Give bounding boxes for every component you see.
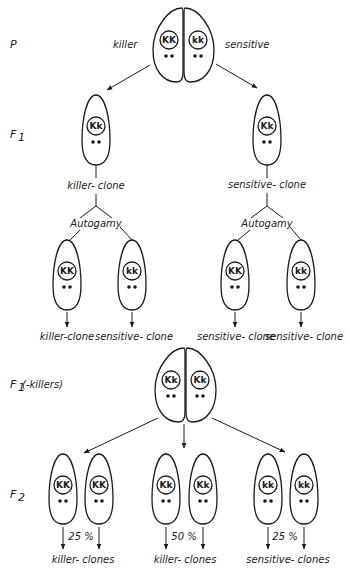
generation-label-f1-killers: F 1 (-killers): [10, 378, 63, 394]
svg-text:1: 1: [18, 131, 25, 144]
generation-label-f1: F 1: [10, 128, 25, 144]
f2-group-3: kk kk 25 % sensitive- clones: [246, 454, 329, 565]
genotype-label: KK: [60, 266, 75, 276]
autogamy-label-4: sensitive- clone: [265, 331, 343, 342]
arrow-p-to-f1-killer: [107, 65, 150, 90]
parental-killer-cell: KK: [153, 8, 183, 82]
genotype-label: kk: [262, 480, 275, 490]
arrow-f1-to-f2-right: [212, 418, 285, 452]
f2-group-1: KK KK 25 % killer- clones: [49, 454, 114, 565]
autogamy-cell-4: kk: [287, 240, 315, 310]
genotype-label: KK: [92, 480, 107, 490]
genotype-label: KK: [162, 35, 177, 45]
branch-lines: [80, 206, 112, 218]
parental-sensitive-cell: kk: [184, 8, 214, 82]
genotype-label: Kk: [194, 375, 208, 385]
branch-lines: [251, 206, 283, 218]
genotype-label: Kk: [90, 121, 104, 131]
genotype-label: KK: [228, 266, 243, 276]
svg-text:2: 2: [18, 491, 25, 504]
genotype-label: Kk: [197, 480, 211, 490]
f1-killer-pair: Kk Kk: [155, 348, 216, 422]
autogamy-label-2: sensitive- clone: [95, 331, 173, 342]
f2-cell: Kk: [152, 454, 180, 524]
f1-sensitive-clone-label: sensitive- clone: [228, 179, 306, 190]
arrow-f1-to-f2-left: [84, 418, 158, 453]
genotype-label: Kk: [160, 480, 174, 490]
genotype-label: kk: [126, 266, 139, 276]
f2-percent-3: 25 %: [272, 531, 297, 542]
parental-pair: KK kk: [153, 8, 214, 82]
genotype-label: KK: [56, 480, 71, 490]
f2-label-3: sensitive- clones: [246, 554, 329, 565]
autogamy-label-left: Autogamy: [69, 218, 122, 229]
autogamy-label-right: Autogamy: [240, 218, 293, 229]
autogamy-cell-3: KK: [221, 240, 249, 310]
f2-cell: kk: [254, 454, 282, 524]
generation-label-f2: F 2: [10, 488, 25, 504]
f2-cell: KK: [85, 454, 113, 524]
autogamy-cell-1: KK: [53, 240, 81, 310]
genotype-label: kk: [295, 266, 308, 276]
parental-sensitive-label: sensitive: [225, 39, 269, 50]
f1-killer-cell: Kk: [82, 95, 110, 165]
f2-cell: kk: [290, 454, 318, 524]
f1-killer-pair-right: Kk: [186, 348, 216, 422]
autogamy-label-1: killer-clone: [40, 331, 94, 342]
genotype-label: Kk: [165, 375, 179, 385]
genotype-label: kk: [192, 35, 205, 45]
f2-cell: Kk: [189, 454, 217, 524]
svg-text:F: F: [10, 488, 17, 501]
genotype-label: Kk: [261, 121, 275, 131]
f2-percent-1: 25 %: [68, 531, 93, 542]
svg-text:F: F: [10, 128, 17, 141]
parental-killer-label: killer: [113, 39, 138, 50]
f2-label-1: killer- clones: [52, 554, 115, 565]
f2-cell: KK: [49, 454, 77, 524]
f2-percent-2: 50 %: [171, 531, 196, 542]
f2-label-2: killer- clones: [154, 554, 217, 565]
autogamy-label-3: sensitive- clone: [197, 331, 275, 342]
autogamy-cell-2: kk: [118, 240, 146, 310]
f2-group-2: Kk Kk 50 % killer- clones: [152, 454, 217, 565]
f1-killer-clone-label: killer- clone: [67, 180, 125, 191]
killer-paramecium-inheritance-diagram: P F 1 F 1 (-killers) F 2 KK kk killer se…: [0, 0, 350, 575]
f1-killer-pair-left: Kk: [155, 348, 185, 422]
svg-text:F: F: [10, 378, 17, 391]
arrow-p-to-f1-sensitive: [216, 64, 257, 88]
genotype-label: kk: [298, 480, 311, 490]
svg-text:(-killers): (-killers): [22, 379, 63, 390]
f1-sensitive-cell: Kk: [253, 95, 281, 165]
generation-label-p: P: [10, 38, 17, 51]
